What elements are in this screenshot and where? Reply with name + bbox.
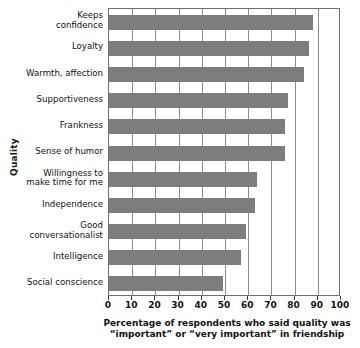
plot-area bbox=[108, 8, 340, 296]
category-label: Sense of humor bbox=[18, 147, 103, 157]
category-label: Independence bbox=[18, 200, 103, 210]
bar bbox=[109, 276, 223, 291]
x-tick-label: 100 bbox=[325, 300, 355, 310]
bar bbox=[109, 250, 241, 265]
bar bbox=[109, 146, 285, 161]
category-label: Loyalty bbox=[18, 42, 103, 52]
bar bbox=[109, 67, 304, 82]
x-axis-tick-labels: 0102030405060708090100 bbox=[0, 300, 360, 312]
bar bbox=[109, 41, 309, 56]
category-label: Good conversationalist bbox=[18, 221, 103, 240]
x-axis-caption-line2: “important” or “very important” in frien… bbox=[100, 329, 354, 340]
bar bbox=[109, 93, 288, 108]
category-label: Supportiveness bbox=[18, 95, 103, 105]
category-label: Keeps confidence bbox=[18, 11, 103, 30]
bar bbox=[109, 224, 246, 239]
gridline bbox=[318, 9, 319, 295]
bar bbox=[109, 15, 313, 30]
chart-title-remnant bbox=[18, 0, 348, 2]
bar bbox=[109, 119, 285, 134]
bar bbox=[109, 172, 257, 187]
category-label: Frankness bbox=[18, 121, 103, 131]
x-axis-caption-line1: Percentage of respondents who said quali… bbox=[100, 318, 354, 329]
category-labels: Keeps confidenceLoyaltyWarmth, affection… bbox=[18, 8, 103, 296]
x-axis-caption: Percentage of respondents who said quali… bbox=[100, 318, 354, 340]
bar bbox=[109, 198, 255, 213]
category-label: Intelligence bbox=[18, 252, 103, 262]
bar-chart: Quality Keeps confidenceLoyaltyWarmth, a… bbox=[0, 0, 360, 348]
category-label: Willingness to make time for me bbox=[18, 169, 103, 188]
category-label: Social conscience bbox=[18, 278, 103, 288]
category-label: Warmth, affection bbox=[18, 69, 103, 79]
